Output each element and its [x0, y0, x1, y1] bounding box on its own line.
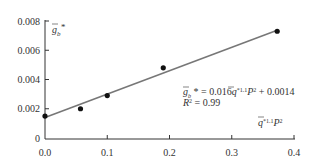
y-tick-label: 0.002 [18, 103, 41, 114]
x-axis-label: q*1.1P2 [258, 117, 283, 128]
y-ticks: 00.0020.0040.0060.008 [18, 16, 50, 144]
x-tick-label: 0.4 [288, 147, 301, 158]
y-tick-label: 0.004 [18, 74, 41, 85]
x-ticks: 0.00.10.20.30.4 [39, 135, 301, 158]
x-tick-label: 0.2 [163, 147, 176, 158]
y-tick-label: 0 [35, 133, 40, 144]
fit-line [45, 30, 277, 117]
y-tick-label: 0.008 [18, 16, 41, 27]
data-point [275, 29, 280, 34]
x-tick-label: 0.1 [101, 147, 114, 158]
x-tick-label: 0.3 [226, 147, 239, 158]
data-point [161, 65, 166, 70]
data-point [105, 93, 110, 98]
x-tick-label: 0.0 [39, 147, 52, 158]
data-point [42, 113, 47, 118]
chart: 00.0020.0040.0060.008 0.00.10.20.30.4 gb… [0, 0, 311, 167]
y-axis-label: gb* [52, 22, 66, 38]
y-tick-label: 0.006 [18, 45, 41, 56]
r-squared-annotation: R2 = 0.99 [182, 97, 220, 108]
data-point [78, 106, 83, 111]
